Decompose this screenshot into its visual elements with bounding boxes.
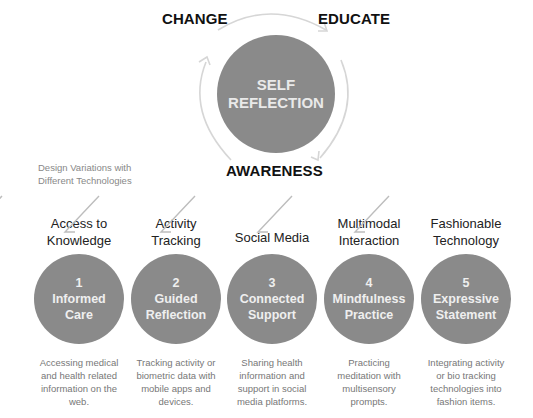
desc-line: Sharing health — [217, 356, 327, 369]
desc-line: meditation with — [314, 369, 424, 382]
design-variations-caption: Design Variations with Different Technol… — [38, 161, 132, 187]
center-line1: SELF — [257, 76, 295, 94]
desc-line: and health related — [24, 369, 134, 382]
variation-name-line1: Guided — [154, 291, 197, 307]
slash-pointer-icon — [353, 192, 413, 237]
desc-line: mobile apps and — [121, 382, 231, 395]
variation-description: Practicing meditation with multisensory … — [314, 356, 424, 408]
desc-line: web. — [24, 395, 134, 408]
category-line1: Fashionable — [411, 215, 521, 232]
variation-circle: 4 Mindfulness Practice — [324, 254, 414, 344]
cycle-label-awareness: AWARENESS — [226, 162, 323, 179]
variation-description: Integrating activity or bio tracking tec… — [411, 356, 521, 408]
variation-name-line2: Reflection — [146, 307, 206, 323]
desc-line: media platforms. — [217, 395, 327, 408]
desc-line: Tracking activity or — [121, 356, 231, 369]
variation-description: Sharing health information and support i… — [217, 356, 327, 408]
variation-circle: 5 Expressive Statement — [421, 254, 511, 344]
variation-circle: 3 Connected Support — [227, 254, 317, 344]
caption-line1: Design Variations with — [38, 161, 132, 174]
variation-name-line2: Statement — [436, 307, 496, 323]
desc-line: Practicing — [314, 356, 424, 369]
slash-pointer-icon — [63, 192, 123, 237]
desc-line: fashion items. — [411, 395, 521, 408]
variation-description: Tracking activity or biometric data with… — [121, 356, 231, 408]
arrow-change-to-educate — [218, 14, 326, 30]
variation-name-line2: Care — [65, 307, 93, 323]
slash-pointer-icon — [0, 192, 26, 237]
variation-name-line2: Practice — [345, 307, 394, 323]
desc-line: Accessing medical — [24, 356, 134, 369]
desc-line: Integrating activity — [411, 356, 521, 369]
self-reflection-circle: SELF REFLECTION — [217, 35, 335, 153]
variation-name-line2: Support — [248, 307, 296, 323]
category-line2: Technology — [411, 232, 521, 249]
desc-line: technologies into — [411, 382, 521, 395]
caption-line2: Different Technologies — [38, 174, 132, 187]
cycle-label-educate: EDUCATE — [318, 10, 390, 27]
variation-number: 4 — [366, 275, 373, 291]
desc-line: information and — [217, 369, 327, 382]
variation-name-line1: Connected — [240, 291, 305, 307]
slash-pointer-icon — [256, 192, 316, 237]
variation-number: 1 — [76, 275, 83, 291]
variation-number: 2 — [173, 275, 180, 291]
slash-pointer-icon — [159, 192, 219, 237]
center-line2: REFLECTION — [228, 94, 324, 112]
desc-line: devices. — [121, 395, 231, 408]
variation-number: 3 — [269, 275, 276, 291]
variation-name-line1: Informed — [52, 291, 105, 307]
cycle-label-change: CHANGE — [162, 10, 228, 27]
desc-line: biometric data with — [121, 369, 231, 382]
category-label: Fashionable Technology — [411, 215, 521, 249]
desc-line: support in social — [217, 382, 327, 395]
variation-description: Accessing medical and health related inf… — [24, 356, 134, 408]
variation-circle: 2 Guided Reflection — [131, 254, 221, 344]
variation-circle: 1 Informed Care — [34, 254, 124, 344]
variation-name-line1: Expressive — [433, 291, 499, 307]
variation-name-line1: Mindfulness — [333, 291, 406, 307]
desc-line: multisensory — [314, 382, 424, 395]
desc-line: prompts. — [314, 395, 424, 408]
variation-number: 5 — [463, 275, 470, 291]
desc-line: or bio tracking — [411, 369, 521, 382]
desc-line: information on the — [24, 382, 134, 395]
